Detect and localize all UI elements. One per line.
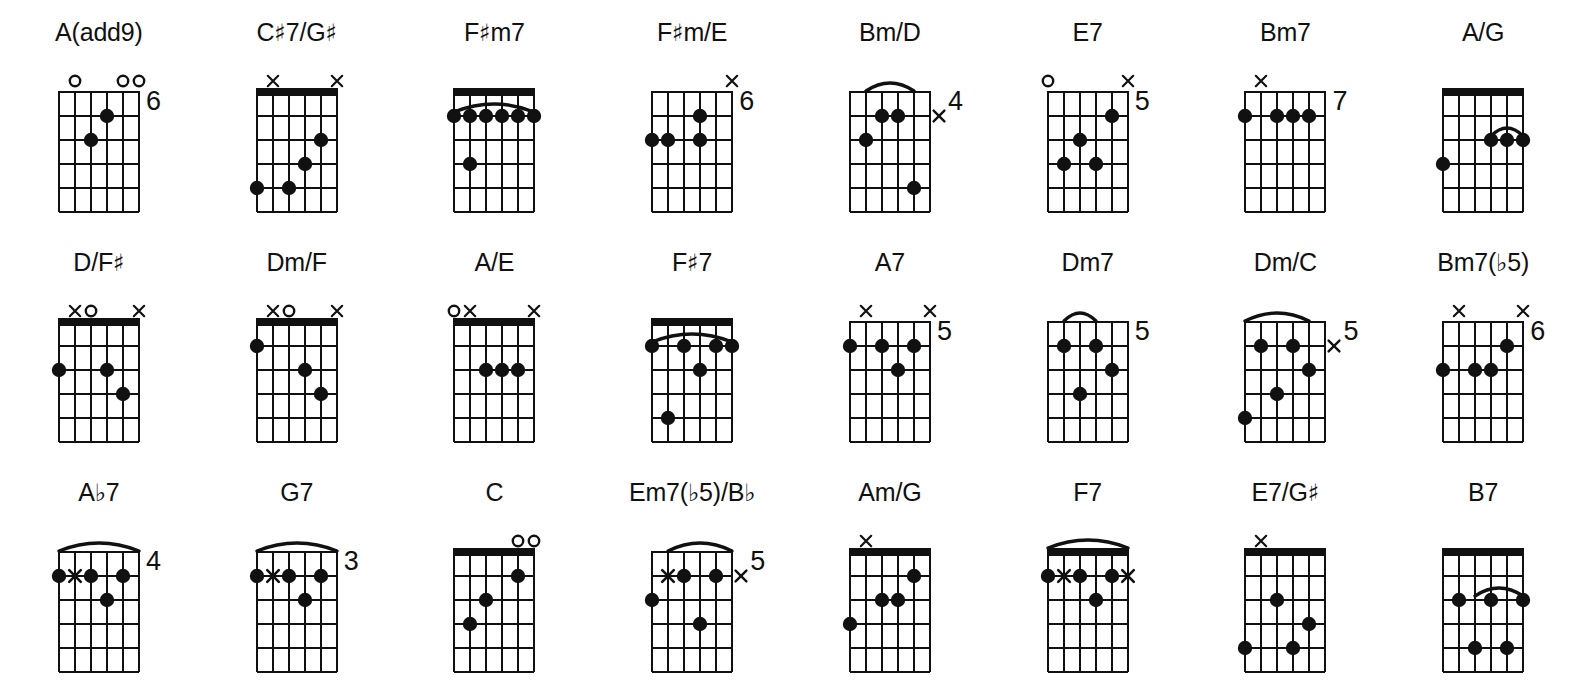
chord-chart-sheet: A(add9)6C♯7/G♯F♯m7F♯m/E6Bm/D4E75Bm77A/GD… [0,0,1582,691]
chord-cell-f7[interactable]: F7 [989,460,1187,690]
chord-cell-fsharpm7[interactable]: F♯m7 [396,0,594,230]
chord-diagram-am-g [791,460,989,690]
fret-position-label-bm7-b5: 6 [1530,318,1545,345]
chord-cell-aflat7[interactable]: A♭74 [0,460,198,690]
chord-diagram-csharp7-gsharp [198,0,396,230]
chord-diagram-fsharpm7 [396,0,594,230]
chord-diagram-dm-f [198,230,396,460]
chord-cell-a-e[interactable]: A/E [396,230,594,460]
chord-diagram-bm7: 7 [1187,0,1385,230]
chord-diagram-bm7-b5: 6 [1384,230,1582,460]
chord-cell-b7[interactable]: B7 [1384,460,1582,690]
fret-position-label-a7: 5 [937,318,952,345]
fret-position-label-em7-b5-bflat: 5 [750,548,765,575]
fret-position-label-e7: 5 [1135,88,1150,115]
chord-cell-e7[interactable]: E75 [989,0,1187,230]
chord-cell-bm7[interactable]: Bm77 [1187,0,1385,230]
chord-diagram-d-fsharp [0,230,198,460]
chord-diagram-e7: 5 [989,0,1187,230]
chord-cell-a-add9[interactable]: A(add9)6 [0,0,198,230]
chord-diagram-a-e [396,230,594,460]
chord-diagram-a-add9: 6 [0,0,198,230]
chord-cell-e7-gsharp[interactable]: E7/G♯ [1187,460,1385,690]
chord-diagram-a-g [1384,0,1582,230]
chord-cell-dm-c[interactable]: Dm/C5 [1187,230,1385,460]
chord-diagram-aflat7: 4 [0,460,198,690]
chord-cell-dm7[interactable]: Dm75 [989,230,1187,460]
chord-cell-d-fsharp[interactable]: D/F♯ [0,230,198,460]
fret-position-label-a-add9: 6 [146,88,161,115]
chord-cell-fsharp7[interactable]: F♯7 [593,230,791,460]
chord-diagram-fsharp7 [593,230,791,460]
chord-diagram-bm-d: 4 [791,0,989,230]
chord-row: A♭74G73CEm7(♭5)/B♭5Am/GF7E7/G♯B7 [0,460,1582,690]
chord-diagram-em7-b5-bflat: 5 [593,460,791,690]
chord-diagram-c [396,460,594,690]
chord-diagram-fsharpm-e: 6 [593,0,791,230]
chord-cell-bm7-b5[interactable]: Bm7(♭5)6 [1384,230,1582,460]
chord-row: A(add9)6C♯7/G♯F♯m7F♯m/E6Bm/D4E75Bm77A/G [0,0,1582,230]
chord-diagram-e7-gsharp [1187,460,1385,690]
chord-diagram-f7 [989,460,1187,690]
fret-position-label-dm-c: 5 [1343,318,1358,345]
chord-cell-a7[interactable]: A75 [791,230,989,460]
chord-cell-fsharpm-e[interactable]: F♯m/E6 [593,0,791,230]
chord-cell-a-g[interactable]: A/G [1384,0,1582,230]
fret-position-label-bm-d: 4 [948,88,963,115]
fret-position-label-fsharpm-e: 6 [739,88,754,115]
chord-cell-csharp7-gsharp[interactable]: C♯7/G♯ [198,0,396,230]
chord-row: D/F♯Dm/FA/EF♯7A75Dm75Dm/C5Bm7(♭5)6 [0,230,1582,460]
chord-cell-c[interactable]: C [396,460,594,690]
fret-position-label-aflat7: 4 [146,548,161,575]
chord-diagram-dm7: 5 [989,230,1187,460]
fret-position-label-bm7: 7 [1332,88,1347,115]
fret-position-label-g7: 3 [344,548,359,575]
fret-position-label-dm7: 5 [1135,318,1150,345]
chord-diagram-a7: 5 [791,230,989,460]
chord-cell-g7[interactable]: G73 [198,460,396,690]
chord-cell-bm-d[interactable]: Bm/D4 [791,0,989,230]
chord-diagram-b7 [1384,460,1582,690]
chord-diagram-dm-c: 5 [1187,230,1385,460]
chord-cell-em7-b5-bflat[interactable]: Em7(♭5)/B♭5 [593,460,791,690]
chord-cell-dm-f[interactable]: Dm/F [198,230,396,460]
chord-cell-am-g[interactable]: Am/G [791,460,989,690]
chord-diagram-g7: 3 [198,460,396,690]
